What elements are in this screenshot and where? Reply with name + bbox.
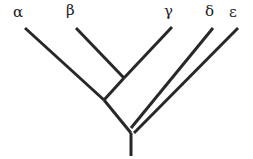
branch-beta-gamma-stem xyxy=(104,78,124,100)
taxon-label-alpha: α xyxy=(13,5,23,20)
taxon-label-epsilon: ε xyxy=(229,5,237,20)
branch-gamma xyxy=(124,27,172,78)
branch-delta xyxy=(131,28,213,128)
taxon-label-gamma: γ xyxy=(164,4,173,19)
cladogram-figure: α β γ δ ε xyxy=(0,0,253,159)
cladogram-canvas xyxy=(0,0,253,159)
branch-beta xyxy=(76,28,124,78)
branch-alpha-clade-stem xyxy=(104,100,131,133)
branch-alpha xyxy=(25,28,104,100)
branch-epsilon xyxy=(134,28,238,133)
taxon-label-beta: β xyxy=(66,3,75,18)
taxon-label-delta: δ xyxy=(205,4,214,19)
branch-layer xyxy=(25,27,238,156)
